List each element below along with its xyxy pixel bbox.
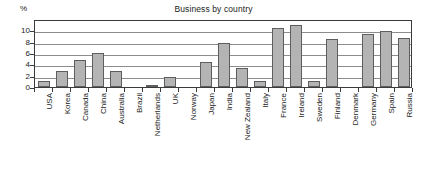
x-axis-label: Canada [82,93,90,121]
bar-chart-figure: Business by country % 0246810 USAKoreaCa… [0,0,427,171]
x-axis-label: Brazil [136,93,144,113]
x-axis-label: Australia [118,93,126,124]
x-axis-label: China [100,93,108,114]
x-axis-label: France [280,93,288,118]
x-axis-label: Italy [262,93,270,108]
x-axis-label: USA [46,93,54,109]
x-axis-label: Denmark [352,93,360,125]
x-axis-label: Ireland [298,93,306,117]
x-axis-label: New Zealand [244,93,252,140]
x-axis-label: Finland [334,93,342,119]
x-axis-label: Korea [64,93,72,114]
x-axis-label: Russia [406,93,414,117]
x-axis-label: Germany [370,93,378,126]
x-axis-label: Japan [208,93,216,115]
x-axis-label: Netherlands [154,93,162,136]
x-axis-label: Spain [388,93,396,113]
x-axis-label: UK [172,93,180,104]
x-axis-label: Sweden [316,93,324,122]
x-axis-label: India [226,93,234,110]
x-axis-label: Norway [190,93,198,120]
x-axis-category-labels: USAKoreaCanadaChinaAustraliaBrazilNether… [0,0,427,171]
